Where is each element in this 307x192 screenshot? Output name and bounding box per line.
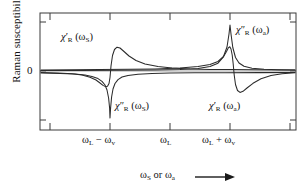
label-chi-real-antistokes: χ′R (ωa) bbox=[209, 101, 240, 113]
curve-chi-imag-stokes bbox=[41, 73, 295, 119]
x-tick-label-stokes: ωL − ωv bbox=[82, 135, 115, 147]
arg-close: ) bbox=[90, 31, 94, 42]
minus-operator: − bbox=[93, 134, 104, 145]
omega-subscript-a: a bbox=[172, 174, 175, 182]
arg-close: ) bbox=[266, 24, 270, 35]
raman-susceptibility-figure: Raman susceptibility 0 bbox=[0, 0, 307, 192]
label-chi-real-stokes: χ′R (ωS) bbox=[61, 32, 93, 44]
arg-close: ) bbox=[146, 100, 150, 111]
plus-operator: + bbox=[213, 134, 224, 145]
omega-subscript-2: v bbox=[111, 139, 115, 147]
arg-close: ) bbox=[237, 100, 241, 111]
x-tick-label-laser: ωL bbox=[160, 135, 171, 147]
omega-subscript-2: v bbox=[231, 139, 235, 147]
x-tick-label-antistokes: ωL + ωv bbox=[202, 135, 235, 147]
omega-subscript: L bbox=[167, 139, 171, 147]
right-arrow-icon bbox=[194, 170, 236, 184]
label-chi-imag-stokes: χ″R (ωS) bbox=[115, 101, 149, 113]
omega-symbol: ω bbox=[202, 134, 209, 145]
omega-symbol: ω bbox=[82, 134, 89, 145]
or-text: or ω bbox=[151, 169, 172, 180]
omega-symbol: ω bbox=[140, 169, 147, 180]
omega-symbol: ω bbox=[160, 134, 167, 145]
arg-open: (ω bbox=[73, 31, 86, 42]
label-chi-imag-antistokes: χ″R (ωa) bbox=[236, 25, 269, 37]
x-axis-caption: ωS or ωa bbox=[140, 170, 175, 182]
arg-open: (ω bbox=[221, 100, 234, 111]
arg-open: (ω bbox=[250, 24, 263, 35]
arg-open: (ω bbox=[129, 100, 142, 111]
